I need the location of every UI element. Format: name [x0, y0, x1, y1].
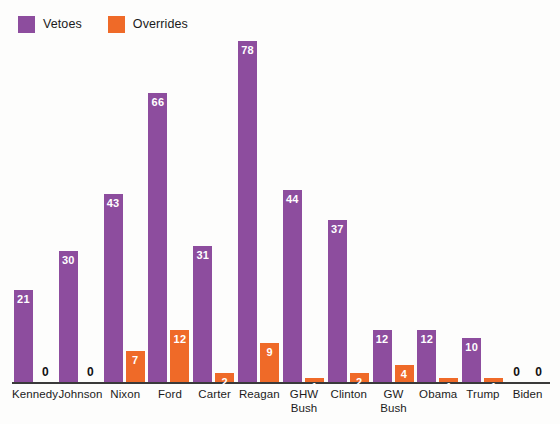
bar-group: 121	[415, 0, 460, 382]
bar-slot: 78	[238, 41, 257, 382]
x-axis-label-line: Bush	[371, 402, 416, 416]
x-axis-label-nixon: Nixon	[103, 388, 148, 415]
bar-slot: 9	[260, 343, 279, 382]
bar-group: 437	[102, 0, 147, 382]
bar-vetoes-nixon[interactable]: 43	[104, 194, 123, 382]
bar-group: 300	[57, 0, 102, 382]
x-axis-label-line: Johnson	[58, 388, 103, 402]
x-axis-label-line: Bush	[282, 402, 327, 416]
bar-value-label: 10	[462, 341, 481, 353]
bar-overrides-ghw-bush[interactable]: 1	[305, 378, 324, 382]
bar-slot: 43	[104, 194, 123, 382]
x-axis-label-johnson: Johnson	[58, 388, 103, 415]
plot-area: 210300437661231278944137212412110100 Ken…	[0, 0, 560, 424]
bar-value-label: 66	[148, 96, 167, 108]
x-axis-label-trump: Trump	[461, 388, 506, 415]
x-axis-label-line: Carter	[192, 388, 237, 402]
bar-slot: 2	[215, 373, 234, 382]
bar-value-label: 21	[14, 293, 33, 305]
bar-overrides-obama[interactable]: 1	[439, 378, 458, 382]
bar-value-label-zero: 0	[529, 366, 548, 379]
x-axis-label-obama: Obama	[416, 388, 461, 415]
bar-value-label-zero: 0	[36, 366, 55, 379]
bar-overrides-carter[interactable]: 2	[215, 373, 234, 382]
bar-group: 312	[191, 0, 236, 382]
bar-overrides-trump[interactable]: 1	[484, 378, 503, 382]
x-axis-label-line: GHW	[282, 388, 327, 402]
bar-value-label: 78	[238, 44, 257, 56]
bar-slot: 1	[484, 378, 503, 382]
bar-slot: 1	[305, 378, 324, 382]
x-axis-label-clinton: Clinton	[326, 388, 371, 415]
x-axis-label-line: Ford	[148, 388, 193, 402]
bar-overrides-nixon[interactable]: 7	[126, 351, 145, 382]
bar-vetoes-carter[interactable]: 31	[193, 246, 212, 382]
bar-value-label-zero: 0	[507, 366, 526, 379]
bar-slot: 2	[350, 373, 369, 382]
bar-value-label: 7	[126, 354, 145, 366]
x-axis-label-carter: Carter	[192, 388, 237, 415]
x-axis-label-line: Trump	[461, 388, 506, 402]
bar-group: 6612	[146, 0, 191, 382]
bar-slot: 7	[126, 351, 145, 382]
bar-slot: 1	[439, 378, 458, 382]
x-axis-label-reagan: Reagan	[237, 388, 282, 415]
bar-value-label: 43	[104, 197, 123, 209]
bar-slot: 12	[170, 330, 189, 382]
x-axis-label-ford: Ford	[148, 388, 193, 415]
bar-value-label: 2	[350, 376, 369, 388]
bar-value-label: 12	[170, 333, 189, 345]
bar-overrides-reagan[interactable]: 9	[260, 343, 279, 382]
x-axis-label-kennedy: Kennedy	[12, 388, 58, 415]
bar-group: 210	[12, 0, 57, 382]
bar-group: 789	[236, 0, 281, 382]
x-axis-label-line: Nixon	[103, 388, 148, 402]
bar-value-label: 12	[417, 333, 436, 345]
bar-vetoes-clinton[interactable]: 37	[328, 220, 347, 382]
bar-overrides-gw-bush[interactable]: 4	[395, 365, 414, 382]
bar-vetoes-ford[interactable]: 66	[148, 93, 167, 382]
bar-value-label: 37	[328, 223, 347, 235]
bar-slot: 12	[373, 330, 392, 382]
vetoes-overrides-bar-chart: VetoesOverrides 210300437661231278944137…	[0, 0, 560, 424]
bar-vetoes-obama[interactable]: 12	[417, 330, 436, 382]
bar-value-label: 9	[260, 346, 279, 358]
x-axis-label-biden: Biden	[505, 388, 550, 415]
x-axis-label-line: GW	[371, 388, 416, 402]
bar-vetoes-gw-bush[interactable]: 12	[373, 330, 392, 382]
bar-value-label: 30	[59, 254, 78, 266]
x-axis-label-ghw-bush: GHWBush	[282, 388, 327, 415]
bar-groups: 210300437661231278944137212412110100	[12, 0, 550, 382]
bar-slot: 37	[328, 220, 347, 382]
bar-value-label: 44	[283, 193, 302, 205]
x-axis-label-gw-bush: GWBush	[371, 388, 416, 415]
x-axis-label-line: Reagan	[237, 388, 282, 402]
bar-slot: 4	[395, 365, 414, 382]
x-axis-label-line: Clinton	[326, 388, 371, 402]
x-axis-label-line: Biden	[505, 388, 550, 402]
bar-vetoes-trump[interactable]: 10	[462, 338, 481, 382]
bar-slot: 10	[462, 338, 481, 382]
bar-slot: 31	[193, 246, 212, 382]
bar-overrides-clinton[interactable]: 2	[350, 373, 369, 382]
bar-group: 441	[281, 0, 326, 382]
bar-value-label: 12	[373, 333, 392, 345]
bar-vetoes-ghw-bush[interactable]: 44	[283, 190, 302, 382]
bar-vetoes-kennedy[interactable]: 21	[14, 290, 33, 382]
bar-slot: 12	[417, 330, 436, 382]
x-axis-label-line: Kennedy	[12, 388, 58, 402]
bar-value-label: 4	[395, 368, 414, 380]
bar-vetoes-johnson[interactable]: 30	[59, 251, 78, 382]
bar-value-label: 2	[215, 376, 234, 388]
x-axis-label-line: Obama	[416, 388, 461, 402]
bar-slot: 21	[14, 290, 33, 382]
bar-slot: 44	[283, 190, 302, 382]
bar-vetoes-reagan[interactable]: 78	[238, 41, 257, 382]
bar-slot: 30	[59, 251, 78, 382]
x-axis-category-labels: KennedyJohnsonNixonFordCarterReaganGHWBu…	[12, 388, 550, 415]
bar-value-label: 31	[193, 249, 212, 261]
bar-overrides-ford[interactable]: 12	[170, 330, 189, 382]
bar-group: 124	[371, 0, 416, 382]
x-axis-line	[12, 382, 550, 384]
bar-group: 101	[460, 0, 505, 382]
